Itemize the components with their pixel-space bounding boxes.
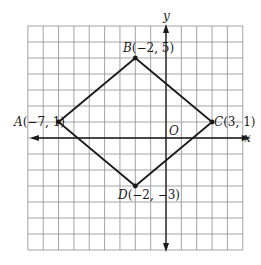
point-label-d: D(−2, −3)	[117, 188, 180, 202]
x-axis-label: x	[244, 131, 251, 145]
y-axis-label: y	[162, 9, 170, 23]
labels: y x O A(−7, 1) B(−2, 5) C(3, 1) D(−2, −3…	[13, 9, 255, 202]
x-axis-arrow-left-icon	[30, 135, 39, 141]
y-axis-arrow-down-icon	[163, 243, 169, 252]
vertex-dot-b	[133, 56, 138, 61]
coordinate-diagram: y x O A(−7, 1) B(−2, 5) C(3, 1) D(−2, −3…	[0, 0, 261, 265]
point-label-b: B(−2, 5)	[122, 41, 174, 55]
y-axis-arrow-up-icon	[163, 24, 169, 33]
point-label-c: C(3, 1)	[214, 115, 255, 129]
origin-label: O	[169, 124, 179, 138]
point-label-a: A(−7, 1)	[13, 115, 65, 129]
coordinate-plane: y x O A(−7, 1) B(−2, 5) C(3, 1) D(−2, −3…	[0, 0, 261, 265]
